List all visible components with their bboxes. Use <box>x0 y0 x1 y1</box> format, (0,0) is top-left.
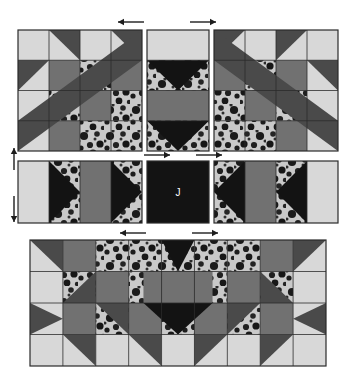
patch <box>260 240 293 272</box>
patch <box>162 335 195 367</box>
patch <box>80 121 111 151</box>
patch <box>293 272 326 304</box>
top-row <box>18 30 338 151</box>
patch <box>147 30 209 60</box>
patch <box>214 121 245 151</box>
patch <box>30 335 63 367</box>
center-block-label: J <box>176 187 181 198</box>
patch <box>18 30 49 60</box>
patch <box>49 121 80 151</box>
patch <box>260 303 293 335</box>
patch <box>63 240 96 272</box>
middle-right-sashing-block[interactable] <box>214 161 338 223</box>
patch <box>245 121 276 151</box>
patch <box>129 240 162 272</box>
patch <box>245 30 276 60</box>
top-right-star-block[interactable] <box>214 30 338 151</box>
top-left-star-block[interactable] <box>18 30 142 151</box>
patch <box>111 121 142 151</box>
bottom-wide-block[interactable] <box>30 240 326 366</box>
top-center-sashing-block[interactable] <box>147 30 209 151</box>
patch <box>276 121 307 151</box>
patch <box>96 272 129 304</box>
patch <box>63 303 96 335</box>
patch <box>245 161 276 223</box>
patch <box>227 272 260 304</box>
patch <box>307 30 338 60</box>
patch <box>227 240 260 272</box>
patch <box>227 335 260 367</box>
patch <box>30 272 63 304</box>
patch <box>307 161 338 223</box>
patch <box>18 161 49 223</box>
patch <box>111 91 142 121</box>
quilt-assembly-diagram: J <box>0 0 355 377</box>
patch-center-bar <box>143 272 212 304</box>
blocks-layer <box>18 30 338 366</box>
middle-left-sashing-block[interactable] <box>18 161 142 223</box>
patch <box>96 335 129 367</box>
patch <box>194 240 227 272</box>
patch <box>96 240 129 272</box>
patch <box>214 91 245 121</box>
patch <box>80 161 111 223</box>
bottom-row <box>30 240 326 366</box>
quilt-diagram-canvas: J <box>0 0 355 377</box>
patch <box>293 335 326 367</box>
patch <box>147 91 209 121</box>
patch <box>80 30 111 60</box>
